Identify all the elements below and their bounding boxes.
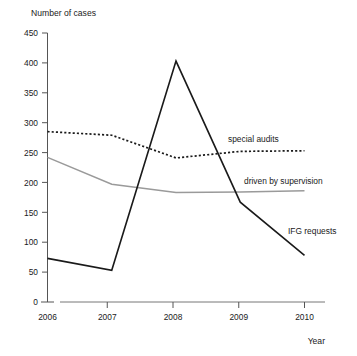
y-axis-title: Number of cases: [31, 8, 96, 18]
x-tick-label: 2010: [295, 312, 314, 322]
x-axis-title: Year: [308, 336, 326, 346]
chart-canvas: 450 400 350 300 250 200 150 100 50 0 200…: [0, 0, 357, 356]
y-tick-label: 350: [24, 88, 38, 98]
series-line-ifg-requests: [48, 61, 305, 270]
y-tick-label: 50: [29, 267, 39, 277]
y-tick-label: 450: [24, 28, 38, 38]
x-axis-tick-labels: 2006 2007 2008 2009 2010: [38, 312, 314, 322]
x-tick-label: 2007: [98, 312, 117, 322]
y-tick-label: 0: [33, 297, 38, 307]
series-label-driven-by-supervision: driven by supervision: [244, 176, 323, 186]
y-tick-label: 250: [24, 148, 38, 158]
y-tick-label: 400: [24, 58, 38, 68]
y-tick-label: 200: [24, 178, 38, 188]
y-axis-tick-labels: 450 400 350 300 250 200 150 100 50 0: [24, 28, 38, 307]
y-tick-label: 300: [24, 118, 38, 128]
series-line-driven-by-supervision: [48, 157, 305, 192]
series-label-special-audits: special audits: [228, 134, 279, 144]
x-tick-label: 2008: [164, 312, 183, 322]
line-chart: 450 400 350 300 250 200 150 100 50 0 200…: [0, 0, 357, 356]
series-label-ifg-requests: IFG requests: [288, 226, 336, 236]
x-tick-label: 2006: [38, 312, 57, 322]
x-axis-ticks: [107, 302, 304, 308]
y-tick-label: 100: [24, 237, 38, 247]
y-tick-label: 150: [24, 208, 38, 218]
x-tick-label: 2009: [229, 312, 248, 322]
